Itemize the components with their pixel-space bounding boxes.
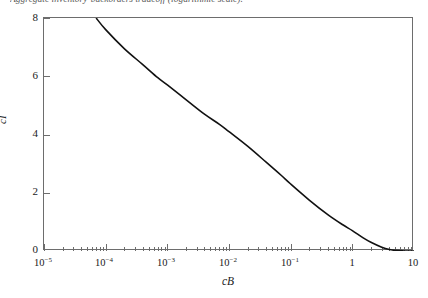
- x-tick-label-1: 1: [349, 256, 354, 269]
- y-tick-label-6: 6: [18, 70, 38, 81]
- y-tick-label-2: 2: [18, 186, 38, 197]
- figure-caption: Aggregate inventory-backorders tradeoff …: [10, 0, 420, 5]
- x-tick-label-1e-1: 10−1: [281, 256, 299, 269]
- x-tick-label-1e-4: 10−4: [95, 256, 113, 269]
- x-tick-label-10: 10: [408, 256, 419, 269]
- y-axis-title: cI: [0, 115, 8, 124]
- figure-container: Aggregate inventory-backorders tradeoff …: [0, 0, 428, 298]
- chart-canvas: [44, 18, 414, 251]
- x-tick-label-1e-2: 10−2: [219, 256, 237, 269]
- y-tick-label-8: 8: [18, 12, 38, 23]
- y-tick-label-4: 4: [18, 128, 38, 139]
- x-axis-tick-labels: 10−5 10−4 10−3 10−2 10−1 1 10: [0, 256, 428, 272]
- axis-ticks: [44, 19, 412, 252]
- y-axis-tick-labels: 8 6 4 2 0: [12, 0, 38, 298]
- y-tick-label-0: 0: [18, 244, 38, 255]
- x-tick-label-1e-5: 10−5: [34, 256, 52, 269]
- plot-area: [43, 17, 413, 250]
- x-tick-label-1e-3: 10−3: [157, 256, 175, 269]
- x-axis-title: cB: [222, 275, 234, 287]
- tradeoff-curve: [96, 18, 414, 251]
